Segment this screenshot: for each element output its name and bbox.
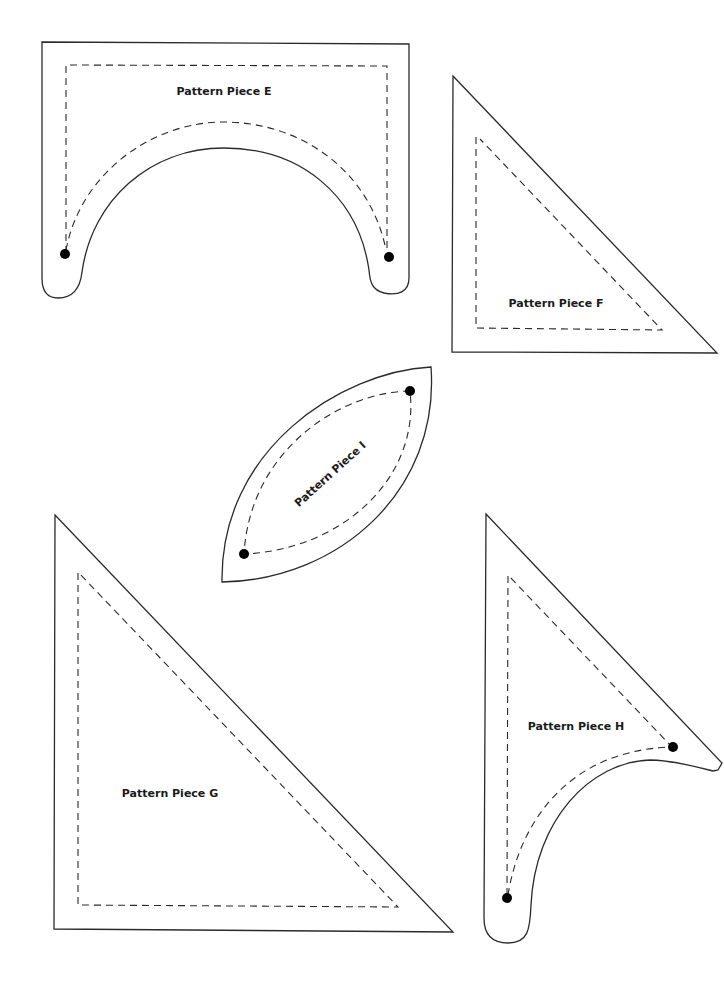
- piece-e-marker-left: [60, 249, 70, 259]
- piece-i-marker-bottom: [239, 549, 249, 559]
- piece-h-marker-bottom: [502, 893, 512, 903]
- piece-g-label: Pattern Piece G: [122, 787, 218, 800]
- pattern-piece-i: Pattern Piece I: [222, 367, 432, 582]
- piece-f-label: Pattern Piece F: [509, 297, 604, 310]
- piece-h-label: Pattern Piece H: [528, 720, 625, 733]
- piece-f-cut-line: [452, 76, 717, 353]
- piece-e-label: Pattern Piece E: [177, 85, 272, 98]
- piece-e-marker-right: [384, 252, 394, 262]
- pattern-piece-f: Pattern Piece F: [452, 76, 717, 353]
- pattern-piece-h: Pattern Piece H: [484, 514, 722, 943]
- piece-h-marker-right: [668, 742, 678, 752]
- piece-i-marker-top: [405, 386, 415, 396]
- piece-e-cut-line: [42, 42, 409, 298]
- pattern-sheet: Pattern Piece E Pattern Piece F Pattern …: [0, 0, 724, 987]
- pattern-piece-e: Pattern Piece E: [42, 42, 409, 298]
